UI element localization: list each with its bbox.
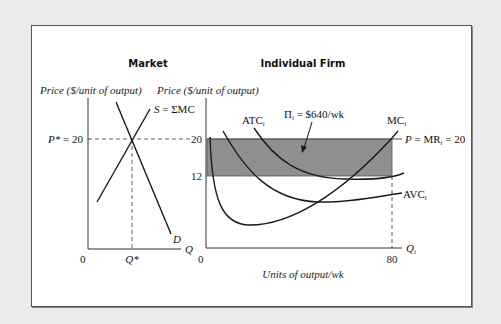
- firm-x-axis-caption: Units of output/wk: [262, 268, 344, 280]
- mc-label: MCi: [387, 114, 406, 128]
- atc-label: ATCi: [242, 114, 265, 128]
- firm-x-tick-80: 80: [387, 253, 399, 265]
- firm-x-axis-label: Qi: [406, 242, 416, 256]
- firm-origin-label: 0: [198, 253, 204, 265]
- market-panel: S = ΣMC D P* = 20 Q 0 Q*: [47, 98, 195, 265]
- firm-y-axis-label: Price ($/unit of output): [156, 84, 259, 97]
- firm-title: Individual Firm: [261, 58, 346, 69]
- demand-label: D: [172, 233, 181, 245]
- firm-y-tick-20: 20: [191, 133, 203, 145]
- firm-y-tick-12: 12: [191, 170, 202, 182]
- avc-label: AVCi: [403, 188, 427, 202]
- market-price-label: P* = 20: [47, 133, 83, 145]
- profit-label: Πi = $640/wk: [284, 108, 345, 122]
- market-quantity-label: Q*: [125, 253, 139, 265]
- market-y-axis-label: Price ($/unit of output): [39, 84, 142, 97]
- price-mr-label: P = MRi = 20: [404, 133, 466, 147]
- supply-curve: [97, 109, 150, 202]
- supply-label: S = ΣMC: [154, 103, 195, 115]
- market-x-axis-label: Q: [185, 243, 193, 255]
- firm-panel: 20 12 0 80 Units of output/wk Qi ATCi MC…: [191, 98, 466, 280]
- economics-diagram: Market Individual Firm Price ($/unit of …: [0, 0, 501, 324]
- market-origin-label: 0: [80, 253, 86, 265]
- market-title: Market: [128, 58, 168, 69]
